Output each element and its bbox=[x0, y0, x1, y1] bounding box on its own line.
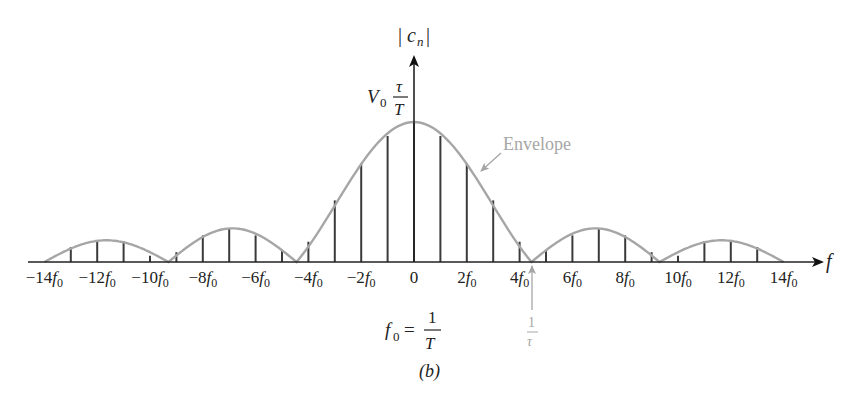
x-tick-label: −6f0 bbox=[241, 268, 270, 290]
svg-text:1: 1 bbox=[428, 308, 437, 327]
x-tick-label: 4f0 bbox=[510, 268, 529, 290]
svg-text:τ: τ bbox=[527, 334, 533, 349]
svg-text:c: c bbox=[407, 24, 416, 46]
svg-text:T: T bbox=[394, 100, 405, 119]
spectrum-figure: | c n | f V 0 τ T Envelope −14f0−12f0−10… bbox=[0, 0, 857, 409]
svg-text:|: | bbox=[398, 24, 402, 47]
x-tick-labels: −14f0−12f0−10f0−8f0−6f0−4f0−2f002f04f06f… bbox=[26, 268, 798, 290]
svg-text:τ: τ bbox=[396, 77, 403, 96]
x-tick-label: 2f0 bbox=[457, 268, 476, 290]
peak-value-label: V 0 τ T bbox=[367, 77, 408, 119]
svg-text:|: | bbox=[426, 24, 430, 47]
svg-text:=: = bbox=[404, 319, 415, 340]
envelope-pointer-arrow bbox=[481, 153, 501, 171]
svg-text:n: n bbox=[417, 34, 424, 49]
x-tick-label: −12f0 bbox=[79, 268, 116, 290]
x-tick-label: 6f0 bbox=[563, 268, 582, 290]
svg-text:0: 0 bbox=[393, 329, 400, 344]
y-axis-label: | c n | bbox=[398, 24, 430, 49]
x-axis-label: f bbox=[826, 250, 834, 273]
x-tick-label: 8f0 bbox=[616, 268, 635, 290]
figure-caption: (b) bbox=[419, 361, 440, 382]
x-tick-label: −4f0 bbox=[294, 268, 323, 290]
x-tick-label: −10f0 bbox=[131, 268, 168, 290]
svg-text:V: V bbox=[367, 86, 381, 107]
x-tick-label: 0 bbox=[410, 268, 419, 287]
svg-text:1: 1 bbox=[528, 315, 535, 330]
svg-text:0: 0 bbox=[380, 95, 387, 110]
x-tick-label: 14f0 bbox=[770, 268, 798, 290]
f0-definition: f 0 = 1 T bbox=[385, 308, 441, 353]
svg-text:T: T bbox=[425, 334, 436, 353]
x-tick-label: −8f0 bbox=[188, 268, 217, 290]
x-tick-label: −14f0 bbox=[26, 268, 63, 290]
envelope-label: Envelope bbox=[503, 134, 571, 154]
x-tick-label: −2f0 bbox=[347, 268, 376, 290]
svg-text:f: f bbox=[385, 319, 393, 340]
x-tick-label: 10f0 bbox=[664, 268, 692, 290]
x-tick-label: 12f0 bbox=[717, 268, 745, 290]
